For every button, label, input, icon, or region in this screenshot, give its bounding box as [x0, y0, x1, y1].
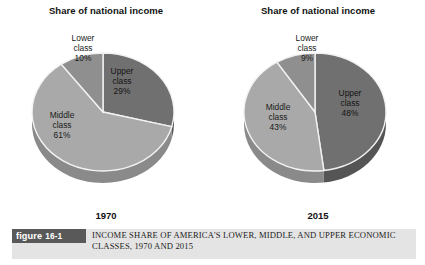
figure-badge-number: 16-1 [45, 231, 62, 241]
pie-graphic-1970: Upper class 29% Middle class 61% Lower c… [30, 26, 182, 198]
figure-badge-word: figure [16, 231, 42, 241]
year-label-1970: 1970 [0, 210, 212, 221]
figure-caption-strip: INCOME SHARE OF AMERICA'S LOWER, MIDDLE,… [86, 229, 416, 259]
pie-graphic-2015: Upper class 48% Middle class 43% Lower c… [242, 26, 394, 198]
pie-svg-1970 [30, 26, 182, 198]
figure-16-1: Share of national income Upper class 29%… [0, 0, 425, 265]
pie-chart-1970: Share of national income Upper class 29%… [0, 0, 212, 225]
pie-svg-2015 [242, 26, 394, 198]
figure-caption-text: INCOME SHARE OF AMERICA'S LOWER, MIDDLE,… [92, 230, 412, 252]
year-label-2015: 2015 [212, 210, 424, 221]
figure-number-badge: figure 16-1 [12, 229, 86, 243]
chart-title-1970: Share of national income [0, 5, 212, 16]
charts-container: Share of national income Upper class 29%… [0, 0, 425, 225]
caption-filler [12, 243, 86, 259]
chart-title-2015: Share of national income [212, 5, 424, 16]
figure-caption-bar: figure 16-1 INCOME SHARE OF AMERICA'S LO… [12, 229, 416, 259]
pie-chart-2015: Share of national income Upper class 48%… [212, 0, 424, 225]
